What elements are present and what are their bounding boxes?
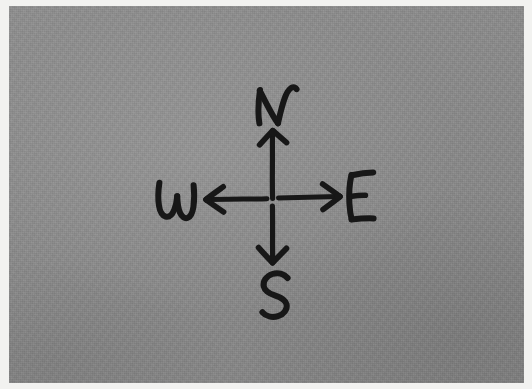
arrow-down <box>259 206 287 264</box>
label-west <box>158 183 194 218</box>
label-east <box>349 172 373 219</box>
paper-shading <box>9 6 524 383</box>
label-south <box>262 273 287 317</box>
arrow-left <box>204 187 267 212</box>
arrow-right <box>279 184 343 210</box>
arrow-up <box>260 129 287 199</box>
label-north <box>258 87 296 123</box>
screenshot-canvas: N S W E Hand-drawn compass rose: a four-… <box>0 0 532 389</box>
compass-rose-drawing <box>9 6 524 383</box>
paper-grain-texture <box>9 6 524 383</box>
paper-sheet <box>9 6 524 383</box>
